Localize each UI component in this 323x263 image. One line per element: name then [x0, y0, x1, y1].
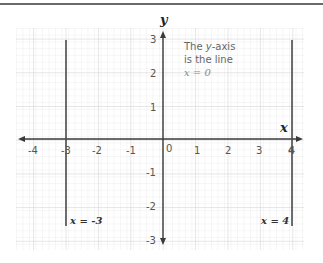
x-tick-label: -3 [61, 145, 71, 156]
y-axis-label: y [159, 12, 169, 27]
x-tick-label: 3 [256, 145, 262, 156]
x-axis-label: x [279, 120, 288, 135]
y-tick-label: 2 [150, 68, 156, 79]
line-label-x-4: x = 4 [260, 215, 289, 226]
annotation-line-2: is the line [184, 54, 233, 65]
coordinate-plane: y x -4 -3 -2 -1 0 1 2 3 4 3 2 1 -1 -2 -3… [0, 0, 323, 263]
annotation-line-1: The y-axis [183, 41, 235, 52]
y-tick-label: -1 [146, 167, 156, 178]
y-tick-label: -3 [146, 235, 156, 246]
y-tick-label: 1 [150, 102, 156, 113]
x-tick-label: -2 [92, 145, 102, 156]
line-label-x-minus-3: x = -3 [69, 215, 102, 226]
x-tick-label: 4 [288, 145, 295, 156]
y-tick-label: 3 [150, 34, 156, 45]
x-tick-label: 1 [194, 145, 200, 156]
y-tick-label: -2 [146, 201, 156, 212]
annotation-line-3: x = 0 [184, 67, 211, 78]
x-tick-label: -1 [126, 145, 136, 156]
origin-label: 0 [166, 143, 172, 154]
x-tick-label: -4 [28, 145, 38, 156]
x-tick-label: 2 [225, 145, 231, 156]
